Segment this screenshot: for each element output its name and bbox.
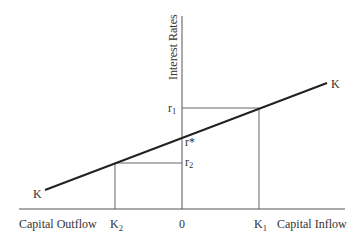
origin-label: 0 bbox=[179, 217, 185, 231]
curve-label-left: K bbox=[33, 187, 42, 201]
capital-flow-diagram: K K Interest Rates r1 r* r2 Capital Outf… bbox=[0, 0, 362, 239]
curve-label-right: K bbox=[331, 77, 340, 91]
x-axis-left-label: Capital Outflow bbox=[19, 217, 97, 231]
x-axis-right-label: Capital Inflow bbox=[277, 217, 347, 231]
r-star-label: r* bbox=[185, 135, 195, 149]
r1-label: r1 bbox=[168, 101, 176, 116]
r2-label: r2 bbox=[185, 155, 193, 170]
y-axis-label: Interest Rates bbox=[166, 14, 180, 80]
k1-label: K1 bbox=[254, 217, 267, 233]
k2-label: K2 bbox=[110, 217, 123, 233]
